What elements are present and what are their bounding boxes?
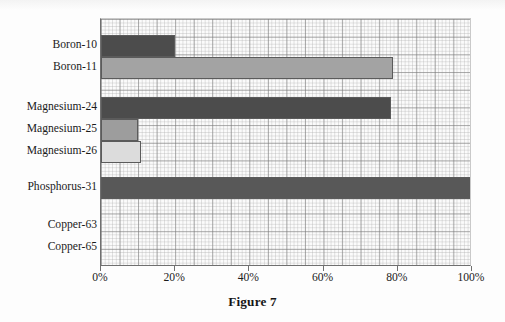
category-label-phosphorus-31: Phosphorus-31	[0, 181, 97, 193]
category-label-magnesium-24: Magnesium-24	[0, 101, 97, 113]
x-tick-label-0pct: 0%	[92, 272, 107, 284]
category-label-copper-65: Copper-65	[0, 241, 97, 253]
x-tick-mark-0	[100, 266, 101, 271]
x-tick-mark-40	[248, 266, 249, 271]
x-tick-mark-100	[471, 266, 472, 271]
bar-magnesium-24	[101, 97, 391, 119]
category-axis-labels: Boron-10Boron-11Magnesium-24Magnesium-25…	[0, 18, 97, 266]
figure-page: Boron-10Boron-11Magnesium-24Magnesium-25…	[0, 0, 505, 322]
bar-magnesium-26	[101, 141, 141, 163]
category-label-boron-10: Boron-10	[0, 39, 97, 51]
bar-boron-11	[101, 57, 393, 79]
bar-boron-10	[101, 35, 175, 57]
x-tick-mark-20	[174, 266, 175, 271]
x-axis-tick-marks	[100, 266, 471, 271]
x-axis-tick-labels: 0%20%40%60%80%100%	[0, 272, 505, 288]
figure-caption: Figure 7	[0, 294, 505, 310]
x-tick-label-80pct: 80%	[386, 272, 407, 284]
chart-plot-area	[100, 18, 471, 266]
x-tick-mark-60	[323, 266, 324, 271]
x-tick-label-60pct: 60%	[312, 272, 333, 284]
x-tick-label-20pct: 20%	[164, 272, 185, 284]
x-tick-mark-80	[397, 266, 398, 271]
category-label-magnesium-26: Magnesium-26	[0, 145, 97, 157]
category-label-magnesium-25: Magnesium-25	[0, 123, 97, 135]
x-tick-label-40pct: 40%	[238, 272, 259, 284]
category-label-copper-63: Copper-63	[0, 219, 97, 231]
category-label-boron-11: Boron-11	[0, 61, 97, 73]
bar-magnesium-25	[101, 119, 138, 141]
x-tick-label-100pct: 100%	[457, 272, 484, 284]
bar-phosphorus-31	[101, 177, 471, 199]
scan-artifact-band	[0, 0, 505, 10]
bars-layer	[101, 19, 470, 265]
